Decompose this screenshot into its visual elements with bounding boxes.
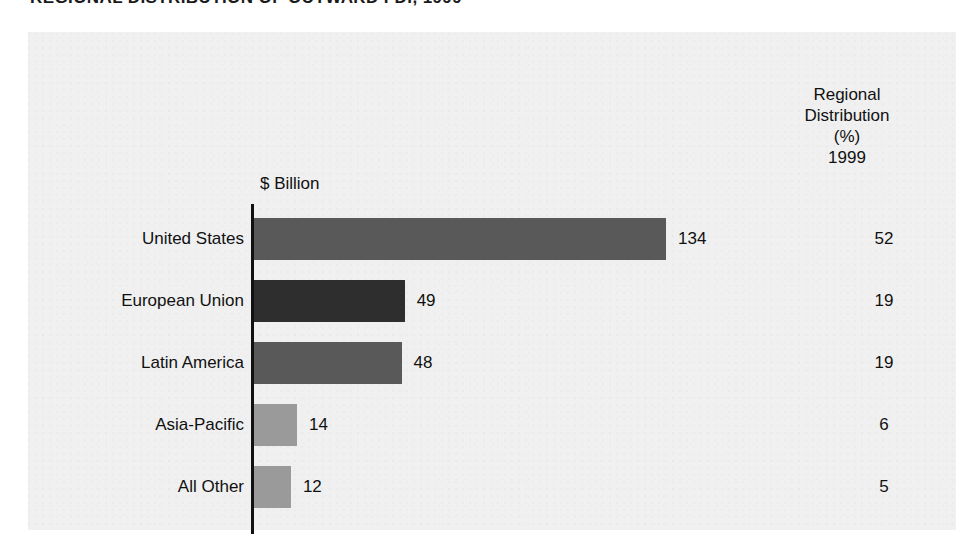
bar-row: European Union4919: [28, 270, 970, 332]
bar: [254, 280, 405, 322]
regional-distribution-value: 19: [834, 291, 934, 311]
regional-header-line-3: (%): [752, 126, 942, 147]
bar-value-label: 49: [417, 291, 436, 311]
bar-group: 134: [254, 218, 706, 260]
regional-header-line-2: Distribution: [752, 105, 942, 126]
regional-distribution-value: 19: [834, 353, 934, 373]
figure-root: REGIONAL DISTRIBUTION OF OUTWARD FDI, 19…: [0, 0, 970, 556]
regional-distribution-value: 6: [834, 415, 934, 435]
regional-header-line-4: 1999: [752, 147, 942, 168]
bar-value-label: 14: [309, 415, 328, 435]
bar-rows: United States13452European Union4919Lati…: [28, 208, 970, 518]
bar: [254, 218, 666, 260]
category-label: United States: [142, 229, 244, 249]
chart-panel: Regional Distribution (%) 1999 $ Billion…: [28, 32, 956, 530]
bar: [254, 466, 291, 508]
bar-value-label: 12: [303, 477, 322, 497]
bar-row: Asia-Pacific146: [28, 394, 970, 456]
bar-value-label: 134: [678, 229, 706, 249]
category-label: European Union: [121, 291, 244, 311]
bar-group: 12: [254, 466, 322, 508]
bar-row: All Other125: [28, 456, 970, 518]
figure-title: REGIONAL DISTRIBUTION OF OUTWARD FDI, 19…: [30, 0, 730, 8]
bar: [254, 404, 297, 446]
bar: [254, 342, 402, 384]
category-label: All Other: [178, 477, 244, 497]
bar-group: 48: [254, 342, 433, 384]
bar-value-label: 48: [414, 353, 433, 373]
regional-distribution-value: 52: [834, 229, 934, 249]
regional-distribution-header: Regional Distribution (%) 1999: [752, 84, 942, 168]
category-label: Latin America: [141, 353, 244, 373]
bar-row: United States13452: [28, 208, 970, 270]
bar-group: 49: [254, 280, 436, 322]
regional-header-line-1: Regional: [752, 84, 942, 105]
category-label: Asia-Pacific: [155, 415, 244, 435]
bar-row: Latin America4819: [28, 332, 970, 394]
bar-group: 14: [254, 404, 328, 446]
regional-distribution-value: 5: [834, 477, 934, 497]
x-axis-caption: $ Billion: [260, 174, 320, 194]
